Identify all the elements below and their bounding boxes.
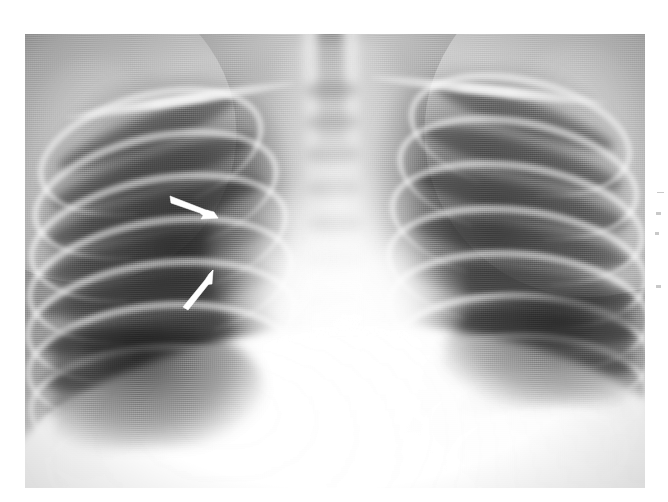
page-root: [0, 0, 668, 502]
margin-mark-4: [656, 285, 661, 288]
film-vignette: [25, 34, 645, 488]
margin-mark-2: [656, 212, 661, 215]
margin-mark-3: [655, 232, 659, 235]
chest-xray-figure: [25, 34, 645, 488]
margin-marks: [652, 190, 666, 310]
margin-mark-1: [657, 192, 664, 193]
radiograph-film: [25, 34, 645, 488]
